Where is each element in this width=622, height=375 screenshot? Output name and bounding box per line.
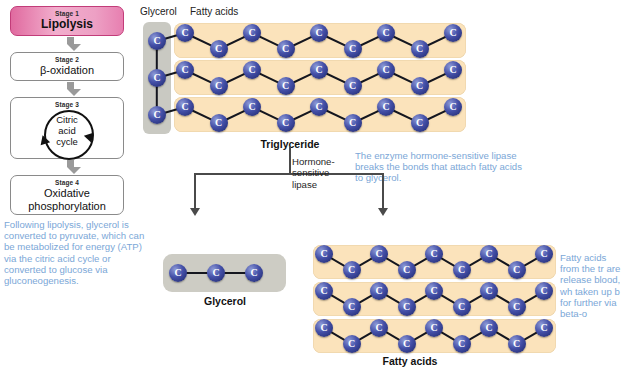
glycerol-backbone-box — [143, 22, 171, 134]
stage-4-label: Stage 4 — [11, 176, 123, 187]
carbon-atom: C — [343, 335, 361, 353]
carbon-atom: C — [210, 40, 228, 58]
carbon-atom: C — [508, 261, 526, 279]
carbon-bond — [379, 327, 407, 344]
carbon-atom: C — [277, 77, 295, 95]
fatty-acid-product-box — [313, 282, 556, 316]
carbon-bond — [218, 32, 252, 49]
carbon-bond — [285, 69, 319, 86]
carbon-atom: C — [176, 24, 194, 42]
carbon-atom: C — [310, 61, 328, 79]
carbon-bond — [434, 290, 462, 307]
fatty-acid-product-box — [313, 319, 556, 353]
carbon-bond — [156, 78, 158, 115]
fork-crossbar — [194, 173, 384, 175]
carbon-bond — [157, 32, 185, 42]
carbon-bond — [324, 253, 352, 270]
carbon-bond — [379, 253, 407, 270]
carbon-bond — [434, 253, 462, 270]
carbon-atom: C — [343, 298, 361, 316]
carbon-bond — [516, 290, 544, 307]
carbon-bond — [324, 290, 352, 307]
carbon-bond — [386, 32, 420, 49]
carbon-bond — [386, 106, 420, 123]
cycle-text: Citric acid cycle — [11, 114, 123, 147]
carbon-atom: C — [411, 77, 429, 95]
carbon-atom: C — [277, 40, 295, 58]
stage-box-oxidative-phosphorylation[interactable]: Stage 4 Oxidative phosphorylation — [10, 175, 124, 215]
carbon-bond — [178, 272, 216, 274]
carbon-atom: C — [277, 114, 295, 132]
carbon-bond — [386, 69, 420, 86]
carbon-atom: C — [425, 319, 443, 337]
carbon-bond — [461, 253, 489, 270]
carbon-atom: C — [535, 245, 553, 263]
carbon-bond — [516, 253, 544, 270]
carbon-atom: C — [377, 98, 395, 116]
stage-1-title: Lipolysis — [11, 18, 123, 31]
fatty-acid-chain-box — [174, 60, 466, 95]
carbon-atom: C — [535, 282, 553, 300]
carbon-atom: C — [148, 69, 166, 87]
carbon-bond — [252, 32, 286, 49]
carbon-bond — [406, 290, 434, 307]
carbon-bond — [351, 327, 379, 344]
fork-arrowhead-left-icon — [190, 208, 200, 216]
carbon-bond — [489, 327, 517, 344]
carbon-bond — [156, 41, 158, 78]
carbon-bond — [285, 106, 319, 123]
stage-box-lipolysis[interactable]: Stage 1 Lipolysis — [10, 6, 124, 36]
carbon-bond — [352, 32, 386, 49]
carbon-atom: C — [444, 61, 462, 79]
carbon-atom: C — [176, 61, 194, 79]
fatty-acid-chain-box — [174, 97, 466, 132]
carbon-bond — [419, 106, 453, 123]
carbon-atom: C — [315, 319, 333, 337]
carbon-atom: C — [243, 98, 261, 116]
carbon-bond — [406, 253, 434, 270]
carbon-bond — [185, 106, 219, 123]
note-glycerol-fate: Following lipolysis, glycerol is convert… — [4, 219, 154, 286]
carbon-bond — [319, 106, 353, 123]
carbon-atom: C — [370, 282, 388, 300]
carbon-bond — [352, 106, 386, 123]
label-glycerol-product: Glycerol — [160, 295, 290, 307]
carbon-atom: C — [425, 282, 443, 300]
carbon-atom: C — [344, 77, 362, 95]
carbon-atom: C — [398, 335, 416, 353]
carbon-atom: C — [411, 40, 429, 58]
carbon-bond — [252, 106, 286, 123]
carbon-atom: C — [480, 282, 498, 300]
fork-stem — [289, 146, 291, 174]
carbon-bond — [285, 32, 319, 49]
carbon-atom: C — [370, 245, 388, 263]
carbon-bond — [489, 253, 517, 270]
carbon-atom: C — [343, 261, 361, 279]
carbon-bond — [489, 290, 517, 307]
carbon-bond — [351, 253, 379, 270]
header-glycerol: Glycerol — [140, 6, 177, 17]
carbon-bond — [352, 69, 386, 86]
label-fatty-acids-product: Fatty acids — [330, 355, 490, 367]
carbon-atom: C — [243, 61, 261, 79]
carbon-bond — [157, 69, 185, 79]
carbon-atom: C — [377, 24, 395, 42]
carbon-atom: C — [508, 335, 526, 353]
stage-box-beta-oxidation[interactable]: Stage 2 β-oxidation — [10, 52, 124, 81]
stage-4-title: Oxidative phosphorylation — [11, 187, 123, 213]
cycle-line-1: Citric — [11, 114, 123, 125]
stage-box-citric-acid-cycle[interactable]: Stage 3 Citric acid cycle — [10, 97, 124, 159]
carbon-atom: C — [243, 24, 261, 42]
carbon-bond — [379, 290, 407, 307]
carbon-bond — [419, 32, 453, 49]
carbon-bond — [516, 327, 544, 344]
carbon-atom: C — [480, 319, 498, 337]
carbon-atom: C — [398, 261, 416, 279]
carbon-atom: C — [148, 106, 166, 124]
carbon-atom: C — [210, 114, 228, 132]
carbon-bond — [461, 290, 489, 307]
carbon-atom: C — [148, 32, 166, 50]
carbon-atom: C — [398, 298, 416, 316]
stage-2-label: Stage 2 — [11, 53, 123, 64]
carbon-atom: C — [315, 282, 333, 300]
